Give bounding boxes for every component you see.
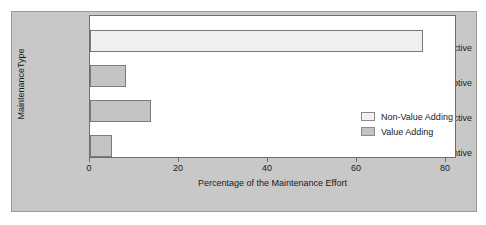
x-tick-mark-0 (89, 158, 90, 162)
legend-swatch-icon-non-value-adding (361, 112, 375, 121)
bar-preventive (90, 135, 112, 157)
y-axis-title-label: MaintenanceType (16, 48, 26, 119)
bar-adaptive (90, 65, 126, 87)
y-axis-title: MaintenanceType (14, 12, 28, 155)
x-tick-label-40: 40 (262, 163, 272, 173)
legend-label-non-value-adding: Non-Value Adding (381, 112, 453, 122)
x-tick-mark-20 (178, 158, 179, 162)
x-tick-label-60: 60 (351, 163, 361, 173)
x-tick-mark-80 (445, 158, 446, 162)
x-tick-label-20: 20 (173, 163, 183, 173)
bar-corrective (90, 30, 423, 52)
legend-entry-non-value-adding: Non-Value Adding (361, 109, 453, 124)
x-tick-mark-40 (267, 158, 268, 162)
x-tick-label-0: 0 (86, 163, 91, 173)
bar-perfective (90, 100, 151, 122)
legend: Non-Value Adding Value Adding (361, 109, 453, 139)
x-axis-title: Percentage of the Maintenance Effort (89, 178, 456, 188)
x-tick-label-80: 80 (440, 163, 450, 173)
legend-swatch-icon-value-adding (361, 127, 375, 136)
legend-label-value-adding: Value Adding (381, 127, 433, 137)
legend-entry-value-adding: Value Adding (361, 124, 453, 139)
x-tick-mark-60 (356, 158, 357, 162)
bar-chart-figure: MaintenanceType Corrective Adaptive Perf… (0, 0, 486, 225)
chart-panel: MaintenanceType Corrective Adaptive Perf… (11, 11, 477, 212)
